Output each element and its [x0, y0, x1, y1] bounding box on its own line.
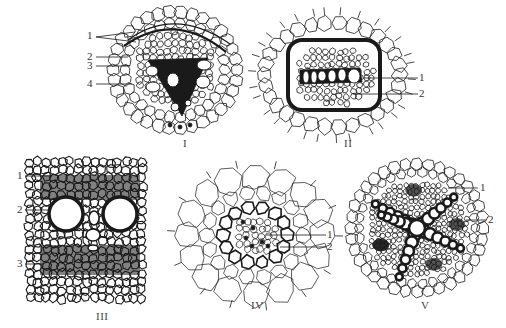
- cortex-cell: [175, 17, 186, 28]
- pith-cell: [297, 60, 302, 67]
- cell-wall-spike: [264, 110, 270, 115]
- pith-cell: [322, 55, 328, 60]
- cortex-cell: [317, 15, 331, 31]
- panel-i-drawing: [0, 0, 260, 150]
- panel-iii-label-2: 2: [17, 204, 23, 215]
- cortex-inner-cell: [420, 265, 425, 270]
- cortex-inner-cell: [392, 254, 397, 259]
- cortex-cell: [214, 276, 242, 301]
- cell-wall-spike: [310, 180, 316, 186]
- stele-cell: [272, 226, 279, 232]
- epidermis-cell: [476, 221, 488, 234]
- cortex-inner-cell: [446, 255, 451, 261]
- panel-iii-caption: III: [96, 311, 109, 322]
- cell-wall-spike: [179, 197, 186, 201]
- cortex-cell: [346, 118, 359, 133]
- pith-cell: [324, 100, 330, 106]
- cortex-inner-cell: [381, 261, 386, 266]
- cortex-cell: [242, 166, 270, 190]
- cortex-cell: [210, 92, 221, 104]
- vessel: [303, 71, 309, 83]
- cortex-cell: [370, 261, 379, 270]
- cortex-inner-cell: [425, 188, 429, 193]
- cortex-inner-cell: [385, 260, 391, 265]
- epidermis-cell: [123, 102, 136, 115]
- xylem-vessel: [396, 273, 403, 280]
- cell-wall-spike: [288, 126, 292, 133]
- cortex-cell: [418, 280, 427, 290]
- cortex-cell: [364, 252, 373, 262]
- cortex-cell: [429, 278, 438, 287]
- cell-wall-spike: [266, 302, 267, 310]
- ground-cell: [34, 156, 42, 166]
- thick-walled-cell: [216, 229, 230, 243]
- cortex-cell: [303, 117, 319, 131]
- epidermis-cell: [433, 282, 444, 294]
- epidermis-cell: [215, 103, 228, 116]
- vessel: [318, 71, 326, 81]
- cortex-inner-cell: [453, 204, 459, 209]
- cortex-inner-cell: [380, 233, 386, 238]
- epidermis-cell: [227, 84, 239, 97]
- epidermis-cell: [111, 44, 124, 55]
- cortex-inner-cell: [397, 193, 402, 198]
- cortex-cell: [469, 213, 479, 222]
- phloem-dot: [178, 125, 182, 129]
- panel-v-drawing: [330, 150, 506, 328]
- pith-cell: [337, 55, 343, 61]
- cortex-inner-cell: [386, 200, 391, 205]
- ground-cell: [123, 157, 132, 166]
- panel-iv-caption: IV: [251, 300, 264, 311]
- ground-cell: [72, 295, 81, 303]
- cell-wall-spike: [206, 172, 210, 179]
- cell-wall-spike: [258, 42, 265, 46]
- ground-cell: [113, 165, 122, 174]
- cell-wall-spike: [398, 105, 405, 109]
- thick-walled-cell: [256, 256, 268, 269]
- cortex-cell: [387, 47, 402, 60]
- endodermis-cell: [270, 265, 287, 278]
- cortex-cell: [218, 54, 230, 65]
- cortex-inner-cell: [392, 233, 397, 238]
- pith-cell: [304, 94, 310, 100]
- panel-i-label-4: 4: [87, 78, 93, 89]
- pith-cell: [357, 83, 363, 88]
- cortex-inner-cell: [402, 232, 407, 237]
- pith-cell: [369, 82, 375, 88]
- panel-i-label-3: 3: [87, 60, 93, 71]
- cortex-cell: [380, 98, 394, 113]
- thick-walled-cell: [241, 202, 254, 215]
- parenchyma-cell: [150, 47, 156, 54]
- ground-cell: [89, 277, 98, 285]
- pith-cell: [350, 48, 356, 53]
- vessel: [196, 76, 210, 88]
- cortex-inner-cell: [402, 194, 408, 199]
- phloem-patch: [449, 219, 465, 231]
- cortex-cell: [263, 47, 277, 60]
- xylem-vessel: [457, 245, 464, 252]
- endodermis-cell: [211, 255, 225, 269]
- ground-cell: [65, 156, 73, 164]
- xylem-vessel: [450, 194, 457, 201]
- phloem-dot: [241, 220, 245, 224]
- cortex-inner-cell: [431, 199, 436, 204]
- parenchyma-cell: [136, 77, 143, 85]
- phloem-dot: [244, 236, 248, 240]
- cortex-cell: [202, 99, 214, 110]
- stele-cell: [258, 234, 266, 241]
- vessel: [338, 69, 346, 81]
- parenchyma-cell: [158, 91, 165, 97]
- cortex-inner-cell: [392, 259, 397, 264]
- epidermis-cell: [410, 158, 422, 171]
- panel-ii-label-2: 2: [419, 88, 425, 99]
- vessel: [167, 73, 179, 87]
- pith-cell: [338, 100, 344, 106]
- protoxylem: [89, 211, 99, 225]
- cortex-inner-cell: [414, 211, 419, 216]
- epidermis-cell: [141, 115, 153, 128]
- cortex-inner-cell: [424, 270, 430, 276]
- cortex-cell: [125, 45, 136, 56]
- cortex-inner-cell: [386, 193, 391, 198]
- cell-wall-spike: [274, 161, 276, 169]
- cortex-inner-cell: [442, 188, 448, 193]
